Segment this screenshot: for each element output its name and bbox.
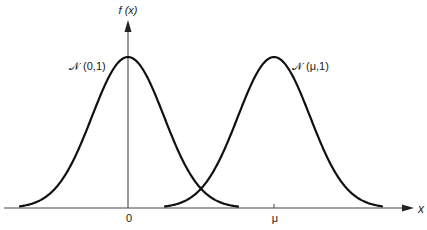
normal-distributions-figure: x f (x) 0 μ 𝒩 (0,1) 𝒩 (μ,1) — [0, 0, 427, 230]
curve-label-n-0-1: 𝒩 (0,1) — [69, 60, 106, 72]
y-axis-arrow-icon — [125, 20, 132, 32]
curve-label-n-mu-1: 𝒩 (μ,1) — [292, 60, 329, 72]
x-ticks: 0 μ — [126, 204, 278, 224]
x-axis-label: x — [417, 202, 425, 216]
x-axis: x — [4, 202, 425, 216]
x-axis-arrow-icon — [402, 205, 414, 212]
y-axis-label: f (x) — [119, 4, 138, 16]
tick-label-zero: 0 — [126, 212, 132, 224]
y-axis: f (x) — [119, 4, 138, 208]
tick-label-mu: μ — [272, 212, 278, 224]
